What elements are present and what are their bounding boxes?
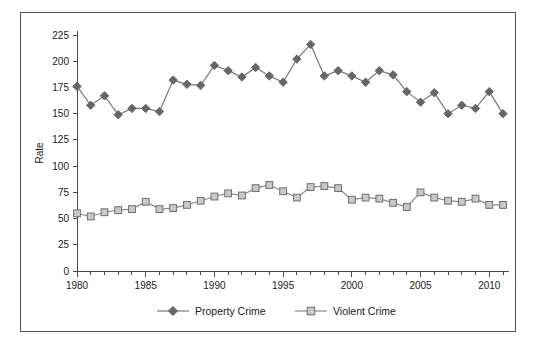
data-point-violent-crime (431, 194, 438, 201)
data-point-violent-crime (500, 202, 507, 209)
data-point-violent-crime (101, 209, 108, 216)
data-point-property-crime (155, 107, 163, 115)
data-point-property-crime (73, 82, 81, 90)
data-point-violent-crime (142, 198, 149, 205)
series-line-property-crime (77, 44, 503, 114)
data-point-property-crime (251, 63, 259, 71)
data-point-violent-crime (280, 188, 287, 195)
y-axis-tick-label: 100 (52, 161, 69, 172)
data-point-violent-crime (321, 183, 328, 190)
data-point-violent-crime (225, 190, 232, 197)
data-point-violent-crime (170, 205, 177, 212)
y-axis-tick-label: 50 (58, 213, 70, 224)
legend-marker-violent-crime (307, 307, 315, 315)
data-point-violent-crime (74, 210, 81, 217)
data-point-violent-crime (445, 197, 452, 204)
data-point-violent-crime (348, 196, 355, 203)
data-point-violent-crime (458, 198, 465, 205)
data-point-violent-crime (472, 195, 479, 202)
legend-label-violent-crime: Violent Crime (333, 305, 396, 317)
data-point-property-crime (458, 101, 466, 109)
data-point-violent-crime (211, 193, 218, 200)
data-point-violent-crime (307, 184, 314, 191)
data-point-violent-crime (390, 199, 397, 206)
y-axis-tick-label: 200 (52, 56, 69, 67)
y-axis-tick-label: 125 (52, 134, 69, 145)
x-axis-tick-label: 2000 (341, 280, 364, 291)
data-point-violent-crime (403, 204, 410, 211)
data-point-property-crime (196, 81, 204, 89)
data-point-violent-crime (129, 206, 136, 213)
data-point-violent-crime (239, 192, 246, 199)
data-point-property-crime (114, 111, 122, 119)
y-axis-tick-label: 150 (52, 108, 69, 119)
crime-rate-line-chart: 0255075100125150175200225Rate19801985199… (21, 13, 515, 331)
y-axis-tick-label: 75 (58, 187, 70, 198)
data-point-property-crime (128, 104, 136, 112)
data-point-violent-crime (197, 197, 204, 204)
data-point-violent-crime (293, 194, 300, 201)
data-point-property-crime (238, 73, 246, 81)
data-point-property-crime (210, 61, 218, 69)
data-point-property-crime (224, 66, 232, 74)
data-point-violent-crime (335, 185, 342, 192)
data-point-property-crime (169, 76, 177, 84)
data-point-property-crime (265, 72, 273, 80)
data-point-property-crime (334, 66, 342, 74)
data-point-violent-crime (376, 195, 383, 202)
y-axis-title: Rate (34, 142, 45, 164)
x-axis-tick-label: 2005 (409, 280, 432, 291)
x-axis-tick-label: 1985 (135, 280, 158, 291)
legend-marker-property-crime (168, 306, 177, 315)
y-axis-tick-label: 25 (58, 239, 70, 250)
data-point-violent-crime (252, 185, 259, 192)
data-point-violent-crime (266, 182, 273, 189)
data-point-property-crime (279, 78, 287, 86)
data-point-property-crime (499, 109, 507, 117)
y-axis-tick-label: 0 (63, 266, 69, 277)
data-point-property-crime (87, 101, 95, 109)
data-point-property-crime (142, 104, 150, 112)
data-point-property-crime (100, 92, 108, 100)
data-point-violent-crime (115, 207, 122, 214)
data-point-property-crime (348, 72, 356, 80)
data-point-violent-crime (362, 194, 369, 201)
x-axis-tick-label: 1980 (66, 280, 89, 291)
x-axis-tick-label: 1995 (272, 280, 295, 291)
data-point-violent-crime (417, 189, 424, 196)
data-point-violent-crime (486, 202, 493, 209)
y-axis-tick-label: 175 (52, 82, 69, 93)
data-point-property-crime (444, 109, 452, 117)
chart-frame: 0255075100125150175200225Rate19801985199… (20, 12, 516, 332)
data-point-property-crime (430, 88, 438, 96)
x-axis-tick-label: 1990 (203, 280, 226, 291)
series-line-violent-crime (77, 185, 503, 216)
data-point-violent-crime (156, 206, 163, 213)
y-axis-tick-label: 225 (52, 30, 69, 41)
data-point-violent-crime (184, 202, 191, 209)
data-point-property-crime (183, 80, 191, 88)
legend-label-property-crime: Property Crime (195, 305, 266, 317)
data-point-property-crime (320, 72, 328, 80)
data-point-violent-crime (87, 213, 94, 220)
x-axis-tick-label: 2010 (478, 280, 501, 291)
